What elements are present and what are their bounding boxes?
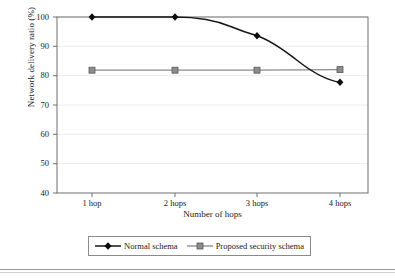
data-point-marker (254, 67, 260, 73)
series-normal-schema (89, 13, 344, 86)
y-tick-label: 50 (23, 158, 49, 168)
data-point-marker (172, 67, 178, 73)
diamond-marker-icon (95, 241, 121, 251)
legend-entry-normal-schema: Normal schema (95, 241, 178, 251)
x-axis-title: Number of hops (57, 209, 368, 219)
y-axis-ticks (53, 17, 57, 193)
x-tick-label: 3 hops (234, 198, 280, 208)
square-marker-icon (187, 241, 213, 251)
footer-divider-secondary (0, 272, 395, 273)
data-point-marker (254, 32, 261, 40)
chart-legend: Normal schema Proposed security schema (88, 236, 311, 256)
legend-entry-proposed-security-schema: Proposed security schema (187, 241, 304, 251)
data-point-markers (89, 13, 344, 86)
y-axis-title: Network delivery ratio (%) (26, 0, 36, 132)
x-tick-label: 1 hop (69, 198, 115, 208)
chart-figure: 100 90 80 70 60 50 40 1 hop 2 hops 3 hop… (0, 0, 395, 278)
legend-label: Proposed security schema (216, 241, 304, 251)
series-proposed-security-schema (89, 67, 343, 74)
data-point-marker (172, 13, 179, 21)
legend-label: Normal schema (124, 241, 178, 251)
data-point-marker (337, 79, 344, 87)
grid-lines (57, 17, 368, 164)
x-tick-label: 4 hops (317, 198, 363, 208)
data-point-marker (89, 67, 95, 73)
data-point-marker (337, 67, 343, 73)
data-point-marker (89, 13, 96, 21)
footer-divider (0, 269, 395, 270)
x-axis-ticks (92, 193, 340, 197)
x-tick-label: 2 hops (152, 198, 198, 208)
y-tick-label: 40 (23, 188, 49, 198)
